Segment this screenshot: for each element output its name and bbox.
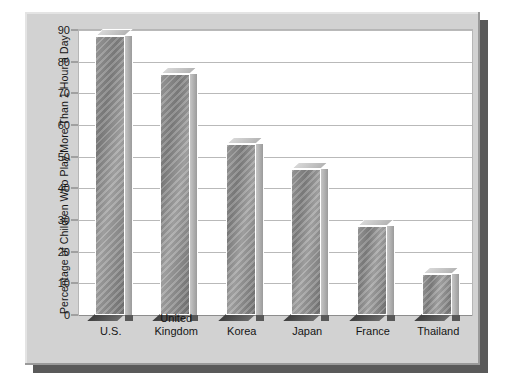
gridline — [79, 220, 472, 221]
y-tick-mark — [71, 61, 78, 62]
gridline — [79, 188, 472, 189]
bar-top-face — [422, 267, 460, 274]
bar-base-side-face — [452, 315, 460, 321]
y-tick-label: 0 — [30, 309, 70, 321]
bar-top-face — [226, 137, 264, 144]
y-tick-label: 70 — [30, 87, 70, 99]
y-tick-label: 40 — [30, 182, 70, 194]
y-tick-label: 90 — [30, 24, 70, 36]
gridline — [79, 252, 472, 253]
bar-side-face — [256, 144, 264, 315]
y-tick-label: 10 — [30, 277, 70, 289]
bar — [357, 225, 395, 321]
x-axis-category-label: United Kingdom — [144, 312, 210, 338]
bar-front-face — [226, 144, 256, 315]
y-tick-label: 80 — [30, 56, 70, 68]
bar-base-side-face — [256, 315, 264, 321]
y-tick-mark — [71, 188, 78, 189]
gridline — [79, 315, 472, 316]
y-tick-label: 50 — [30, 151, 70, 163]
bar-top-face — [160, 67, 198, 74]
bar-base-side-face — [321, 315, 329, 321]
panel-shadow-bottom — [33, 365, 488, 373]
bar-front-face — [95, 36, 125, 315]
gridline — [79, 125, 472, 126]
bar-side-face — [387, 226, 395, 315]
y-tick-mark — [71, 251, 78, 252]
gridline — [79, 283, 472, 284]
y-tick-mark — [71, 93, 78, 94]
bar-top-face — [95, 29, 133, 36]
y-tick-mark — [71, 283, 78, 284]
chart-figure: Percentage of Children Who Play More Tha… — [25, 12, 480, 365]
panel-shadow-right — [480, 20, 488, 373]
x-axis-category-label: U.S. — [78, 325, 144, 338]
y-tick-mark — [71, 30, 78, 31]
y-tick-label: 30 — [30, 214, 70, 226]
y-tick-mark — [71, 220, 78, 221]
bar-side-face — [452, 274, 460, 315]
x-axis-category-label: Japan — [275, 325, 341, 338]
bar-base-face — [414, 314, 452, 321]
bar-front-face — [291, 169, 321, 315]
y-tick-mark — [71, 315, 78, 316]
bar-base-face — [283, 314, 321, 321]
bar-top-face — [291, 162, 329, 169]
x-axis-category-label: France — [340, 325, 406, 338]
bar-base-face — [87, 314, 125, 321]
y-axis-title: Percentage of Children Who Play More Tha… — [55, 41, 73, 314]
y-tick-mark — [71, 125, 78, 126]
y-tick-mark — [71, 156, 78, 157]
x-axis-category-label: Thailand — [406, 325, 472, 338]
gridline — [79, 30, 472, 31]
bar — [95, 35, 133, 321]
bar-base-face — [218, 314, 256, 321]
bar-front-face — [160, 74, 190, 315]
bar-top-face — [357, 219, 395, 226]
y-tick-label: 20 — [30, 246, 70, 258]
plot-area: 0102030405060708090 — [78, 29, 473, 316]
gridline — [79, 157, 472, 158]
bar-side-face — [321, 169, 329, 315]
bar — [160, 73, 198, 321]
bar-base-side-face — [125, 315, 133, 321]
y-tick-label: 60 — [30, 119, 70, 131]
bar — [422, 273, 460, 321]
bar-base-face — [349, 314, 387, 321]
bar-base-side-face — [387, 315, 395, 321]
bar-side-face — [190, 74, 198, 315]
bar — [226, 143, 264, 321]
bar — [291, 168, 329, 321]
gridline — [79, 93, 472, 94]
x-axis-category-label: Korea — [209, 325, 275, 338]
bar-front-face — [422, 274, 452, 315]
gridline — [79, 62, 472, 63]
bar-front-face — [357, 226, 387, 315]
bar-side-face — [125, 36, 133, 315]
